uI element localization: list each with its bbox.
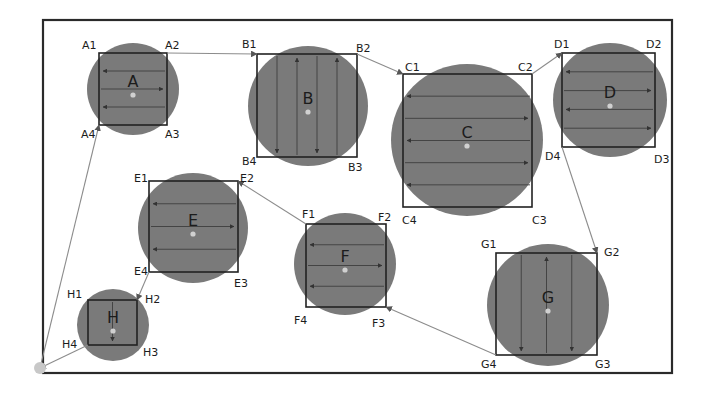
start-point [34, 362, 46, 374]
corner-label-d2: D2 [646, 38, 661, 51]
transition-a2-to-b1 [167, 53, 257, 54]
area-center-dot [607, 103, 612, 108]
corner-label-f3: F3 [372, 317, 385, 330]
corner-label-h2: H2 [145, 293, 160, 306]
corner-label-a2: A2 [165, 39, 180, 52]
corner-label-f2: F2 [378, 211, 391, 224]
area-center-dot [464, 143, 469, 148]
corner-label-g3: G3 [595, 358, 611, 371]
area-label-c: C [461, 123, 472, 142]
corner-label-h1: H1 [67, 288, 82, 301]
corner-label-e4: E4 [134, 265, 148, 278]
corner-label-f1: F1 [302, 208, 315, 221]
corner-label-g4: G4 [481, 358, 497, 371]
area-label-a: A [128, 72, 139, 91]
corner-label-c3: C3 [532, 214, 547, 227]
area-center-dot [342, 267, 347, 272]
corner-label-b1: B1 [242, 38, 257, 51]
transition-f1-to-e2 [238, 181, 306, 224]
transition-g4-to-f3 [386, 307, 496, 355]
area-center-dot [190, 231, 195, 236]
corner-label-c2: C2 [518, 61, 533, 74]
area-label-g: G [542, 288, 554, 307]
corner-label-b3: B3 [348, 161, 363, 174]
corner-label-b4: B4 [242, 155, 257, 168]
area-label-h: H [107, 308, 119, 327]
corner-label-c4: C4 [402, 214, 417, 227]
area-center-dot [110, 328, 115, 333]
corner-label-d1: D1 [554, 38, 569, 51]
corner-label-e3: E3 [234, 277, 248, 290]
coverage-path-diagram: ABCDEFGH A1A2A3A4B1B2B3B4C1C2C3C4D1D2D3D… [0, 0, 703, 396]
area-center-dot [305, 109, 310, 114]
area-center-dot [545, 308, 550, 313]
corner-label-d3: D3 [654, 153, 669, 166]
corner-label-h3: H3 [143, 346, 158, 359]
transition-c2-to-d1 [532, 53, 562, 74]
area-label-f: F [340, 247, 349, 266]
area-label-d: D [604, 83, 616, 102]
corner-label-c1: C1 [405, 61, 420, 74]
corner-label-g1: G1 [481, 238, 497, 251]
corner-label-d4: D4 [545, 150, 560, 163]
corner-label-f4: F4 [294, 314, 307, 327]
area-center-dot [130, 92, 135, 97]
corner-label-e1: E1 [134, 172, 148, 185]
corner-label-h4: H4 [62, 338, 77, 351]
area-label-e: E [188, 211, 198, 230]
transition-d4-to-g2 [562, 147, 597, 253]
corner-label-b2: B2 [356, 42, 371, 55]
corner-label-a1: A1 [82, 39, 97, 52]
area-label-b: B [303, 89, 314, 108]
corner-label-g2: G2 [604, 246, 620, 259]
corner-label-a3: A3 [165, 128, 180, 141]
corner-label-a4: A4 [81, 128, 96, 141]
corner-label-e2: E2 [240, 172, 254, 185]
transition-b2-to-c1 [357, 54, 403, 74]
